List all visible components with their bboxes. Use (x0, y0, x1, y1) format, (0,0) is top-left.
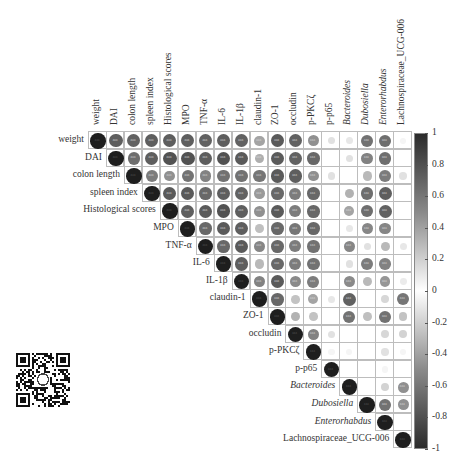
matrix-cell: *** (232, 131, 251, 149)
column-label: DAI (109, 108, 119, 125)
matrix-cell (375, 289, 394, 307)
matrix-cell: *** (375, 272, 394, 290)
significance-marker: *** (292, 174, 297, 178)
matrix-cell: *** (357, 219, 376, 237)
matrix-cell: *** (214, 184, 233, 202)
significance-marker: *** (274, 244, 279, 248)
correlation-dot (381, 295, 389, 303)
significance-marker: *** (202, 174, 207, 178)
matrix-cell: *** (339, 307, 358, 325)
significance-marker: *** (202, 227, 207, 231)
significance-marker: *** (292, 192, 297, 196)
matrix-cell: *** (303, 289, 322, 307)
matrix-cell: *** (232, 166, 251, 184)
matrix-cell (321, 184, 340, 202)
significance-marker: *** (400, 438, 405, 442)
significance-marker: *** (256, 244, 261, 248)
significance-marker: *** (382, 156, 387, 160)
matrix-cell: *** (178, 131, 197, 149)
matrix-cell: *** (303, 272, 322, 290)
correlation-dot (346, 137, 353, 144)
significance-marker: *** (274, 297, 279, 301)
correlation-dot (400, 138, 406, 144)
matrix-cell: *** (214, 166, 233, 184)
matrix-cell: *** (142, 131, 161, 149)
matrix-cell (321, 272, 340, 290)
matrix-cell (357, 237, 376, 255)
matrix-cell: *** (285, 131, 304, 149)
significance-marker: *** (220, 262, 225, 266)
significance-marker: *** (274, 280, 279, 284)
matrix-cell: *** (250, 201, 269, 219)
column-label: MPO (181, 104, 191, 125)
significance-marker: *** (238, 262, 243, 266)
matrix-cell: *** (214, 149, 233, 167)
correlation-dot (400, 278, 407, 285)
matrix-cell (339, 149, 358, 167)
matrix-cell (285, 289, 304, 307)
colorbar-tick-label: 0.2 (432, 253, 444, 263)
matrix-cell: *** (106, 149, 125, 167)
row-label: Enterorhabdus (315, 416, 371, 426)
significance-marker: *** (346, 297, 351, 301)
matrix-cell: *** (142, 184, 161, 202)
significance-marker: *** (256, 209, 261, 213)
significance-marker: *** (238, 209, 243, 213)
matrix-cell: *** (250, 237, 269, 255)
matrix-cell: *** (232, 149, 251, 167)
matrix-cell: *** (196, 166, 215, 184)
matrix-cell: *** (178, 166, 197, 184)
significance-marker: *** (184, 174, 189, 178)
significance-marker: *** (238, 227, 243, 231)
significance-marker: *** (220, 174, 225, 178)
significance-marker: *** (184, 192, 189, 196)
colorbar-tick-label: 0 (432, 285, 437, 295)
significance-marker: *** (364, 156, 369, 160)
significance-marker: *** (292, 209, 297, 213)
matrix-cell (393, 201, 412, 219)
matrix-cell: *** (339, 289, 358, 307)
significance-marker: *** (166, 192, 171, 196)
column-label: spleen index (145, 77, 155, 125)
matrix-cell: *** (285, 219, 304, 237)
matrix-cell: *** (160, 184, 179, 202)
matrix-cell: *** (160, 166, 179, 184)
correlation-dot (400, 349, 406, 355)
matrix-cell: *** (285, 149, 304, 167)
significance-marker: *** (274, 192, 279, 196)
matrix-cell: *** (375, 219, 394, 237)
significance-marker: *** (310, 156, 315, 160)
matrix-cell: *** (196, 184, 215, 202)
column-label: ZO-1 (270, 104, 280, 125)
matrix-cell: *** (357, 254, 376, 272)
row-label: Bacteroides (290, 380, 335, 390)
matrix-cell: *** (232, 237, 251, 255)
colorbar-tick (425, 386, 428, 387)
matrix-cell: *** (375, 307, 394, 325)
column-label: TNF-α (199, 99, 209, 125)
matrix-cell (321, 131, 340, 149)
row-label: DAI (85, 152, 102, 162)
matrix-cell: *** (357, 201, 376, 219)
significance-marker: *** (238, 139, 243, 143)
matrix-cell: *** (250, 166, 269, 184)
matrix-cell: *** (268, 184, 287, 202)
significance-marker: *** (292, 262, 297, 266)
matrix-cell: *** (357, 149, 376, 167)
row-label: occludin (249, 328, 282, 338)
matrix-cell: *** (393, 430, 412, 448)
matrix-cell: *** (232, 184, 251, 202)
matrix-cell (321, 201, 340, 219)
matrix-cell: *** (160, 149, 179, 167)
matrix-cell: *** (268, 272, 287, 290)
significance-marker: *** (346, 315, 351, 319)
matrix-cell (375, 342, 394, 360)
matrix-cell: *** (303, 149, 322, 167)
matrix-cell (357, 377, 376, 395)
qr-code-icon (16, 352, 70, 407)
correlation-dot (364, 243, 371, 250)
row-label: Lachnospiraceae_UCG-006 (283, 433, 389, 443)
matrix-cell: *** (196, 149, 215, 167)
matrix-cell: *** (393, 395, 412, 413)
matrix-cell: *** (178, 219, 197, 237)
